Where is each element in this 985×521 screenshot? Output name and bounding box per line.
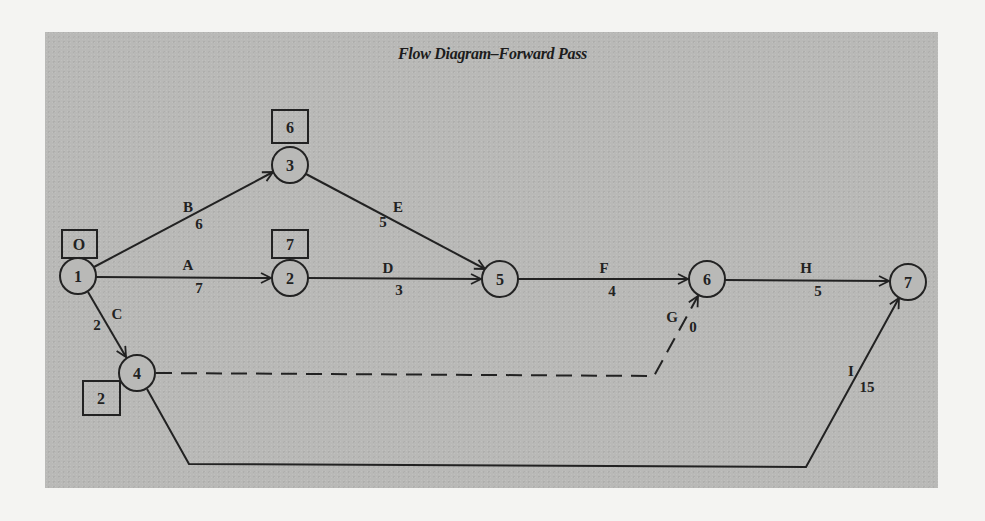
activity-f-name: F [599,260,608,276]
node-3-label: 3 [286,157,294,174]
node-1-label: 1 [74,268,82,285]
activity-e-name: E [393,199,403,215]
activity-a-arrow [96,277,271,278]
node-6-label: 6 [703,271,711,288]
activity-c-name: C [112,306,123,322]
activity-i-duration: 15 [860,379,875,395]
activity-e-arrow [306,174,485,269]
node-7-label: 7 [904,274,912,291]
activity-b-arrow [94,172,273,267]
activity-a-duration: 7 [195,280,203,296]
activity-g-duration: 0 [689,319,697,335]
activity-b-name: B [183,199,193,215]
activity-g-arrow [156,296,698,376]
node-5-label: 5 [496,271,504,288]
node-2-label: 2 [286,270,294,287]
network-diagram: 1 2 3 4 5 6 7 O 7 6 2 B 6 A 7 C 2 E 5 D … [0,0,985,521]
activity-f-duration: 4 [608,283,616,299]
node-4-time: 2 [97,390,105,407]
activity-i-arrow [147,298,899,467]
activity-a-name: A [183,257,194,273]
activity-d-arrow [308,278,481,279]
activity-c-duration: 2 [93,317,101,333]
activity-b-duration: 6 [195,216,203,232]
activity-h-name: H [800,260,812,276]
activity-e-duration: 5 [379,214,387,230]
node-3-time: 6 [286,119,294,136]
activity-d-duration: 3 [395,282,403,298]
activity-h-arrow [725,280,889,281]
node-4-label: 4 [133,365,141,382]
activity-g-name: G [666,309,678,325]
node-2-time: 7 [286,236,294,253]
activity-h-duration: 5 [814,283,822,299]
activity-i-name: I [848,363,854,379]
node-1-time: O [73,236,85,253]
activity-d-name: D [383,260,394,276]
